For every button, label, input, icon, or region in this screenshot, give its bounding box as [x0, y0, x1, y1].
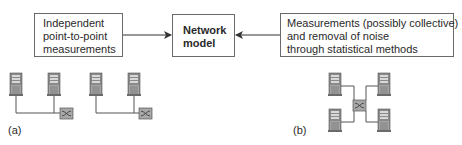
panel-b-label: (b): [293, 124, 306, 136]
box-text-line: and removal of noise: [287, 30, 447, 43]
server-icon: [377, 109, 391, 132]
panel-a-label: (a): [8, 124, 21, 136]
switch-icon: [353, 100, 366, 111]
server-icon: [9, 73, 23, 96]
box-text-line: point-to-point: [43, 30, 114, 43]
box-text-line: Network: [183, 24, 224, 37]
switch-icon: [60, 108, 73, 119]
box-text-line: model: [183, 37, 224, 50]
box-text-line: measurements: [43, 43, 114, 56]
box-independent-measurements: Independent point-to-point measurements: [34, 13, 123, 57]
box-statistical-measurements: Measurements (possibly collective) and r…: [280, 13, 454, 57]
box-text-line: through statistical methods: [287, 43, 447, 56]
panel-a-network: [9, 73, 152, 119]
switch-icon: [139, 108, 152, 119]
server-icon: [89, 73, 103, 96]
panel-b-network: [328, 73, 391, 132]
box-network-model: Network model: [172, 14, 235, 57]
server-icon: [328, 73, 342, 96]
server-icon: [47, 73, 61, 96]
server-icon: [328, 109, 342, 132]
box-text-line: Measurements (possibly collective): [287, 17, 447, 30]
server-icon: [127, 73, 141, 96]
server-icon: [377, 73, 391, 96]
box-text-line: Independent: [43, 17, 114, 30]
